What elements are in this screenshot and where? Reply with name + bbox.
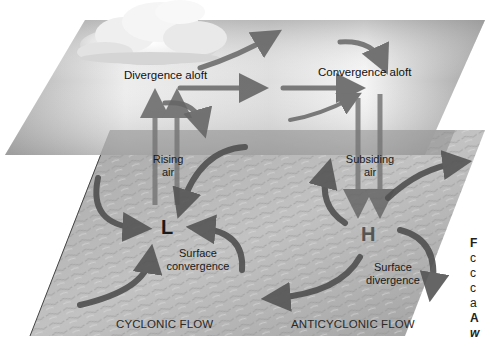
surface-divergence-line2: divergence: [360, 274, 426, 287]
caption-line-1: F: [470, 236, 485, 251]
cyclonic-flow-label: CYCLONIC FLOW: [116, 318, 213, 330]
divergence-aloft-label: Divergence aloft: [124, 69, 207, 82]
subsiding-air-line1: Subsiding: [342, 153, 398, 166]
surface-convergence-line1: Surface: [160, 247, 236, 260]
rising-air-line2: air: [150, 166, 186, 179]
caption-line-4: c: [470, 281, 485, 296]
rising-air-label: Rising air: [150, 153, 186, 179]
caption-line-3: c: [470, 266, 485, 281]
surface-divergence-line1: Surface: [360, 261, 426, 274]
convergence-aloft-label: Convergence aloft: [318, 66, 411, 79]
anticyclonic-flow-label: ANTICYCLONIC FLOW: [291, 318, 415, 330]
surface-divergence-label: Surface divergence: [360, 261, 426, 287]
caption-line-2: c: [470, 251, 485, 266]
high-pressure-center: H: [361, 224, 375, 244]
caption-line-6: A: [470, 311, 485, 326]
figure-caption-fragment: F c c c a A w: [470, 236, 485, 341]
rising-air-line1: Rising: [150, 153, 186, 166]
surface-convergence-label: Surface convergence: [160, 247, 236, 273]
caption-line-7: w: [470, 326, 485, 341]
surface-convergence-line2: convergence: [160, 260, 236, 273]
subsiding-air-line2: air: [342, 166, 398, 179]
cumulus-cloud-icon: [77, 0, 227, 65]
subsiding-air-label: Subsiding air: [342, 153, 398, 179]
low-pressure-center: L: [161, 217, 173, 237]
caption-line-5: a: [470, 296, 485, 311]
surface-plane: [30, 130, 485, 336]
